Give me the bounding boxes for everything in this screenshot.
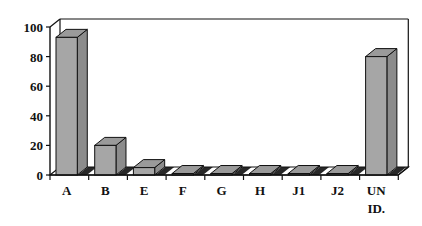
x-tick-label: A — [62, 183, 72, 198]
y-tick-label: 80 — [30, 50, 43, 65]
y-tick-label: 40 — [30, 109, 43, 124]
x-tick-label: H — [255, 183, 265, 198]
x-tick-label: J2 — [331, 183, 344, 198]
x-tick-label: E — [140, 183, 149, 198]
x-tick-label: ID. — [367, 201, 385, 216]
x-tick-label: G — [216, 183, 226, 198]
x-tick-label: F — [179, 183, 187, 198]
y-tick-label: 0 — [37, 168, 44, 183]
bar-b — [95, 137, 126, 175]
bar-a — [56, 29, 87, 175]
x-tick-label: B — [101, 183, 110, 198]
bars — [56, 29, 397, 175]
y-tick-label: 60 — [30, 79, 43, 94]
bar-un-id- — [366, 49, 397, 175]
y-axis: 020406080100 — [24, 20, 51, 183]
x-tick-label: UN — [367, 183, 386, 198]
x-tick-label: J1 — [292, 183, 305, 198]
x-axis: ABEFGHJ1J2UNID. — [50, 167, 408, 216]
y-tick-label: 20 — [30, 138, 43, 153]
y-tick-label: 100 — [24, 20, 44, 35]
bar-chart: 020406080100ABEFGHJ1J2UNID. — [0, 0, 422, 226]
chart-canvas: 020406080100ABEFGHJ1J2UNID. — [0, 0, 422, 226]
